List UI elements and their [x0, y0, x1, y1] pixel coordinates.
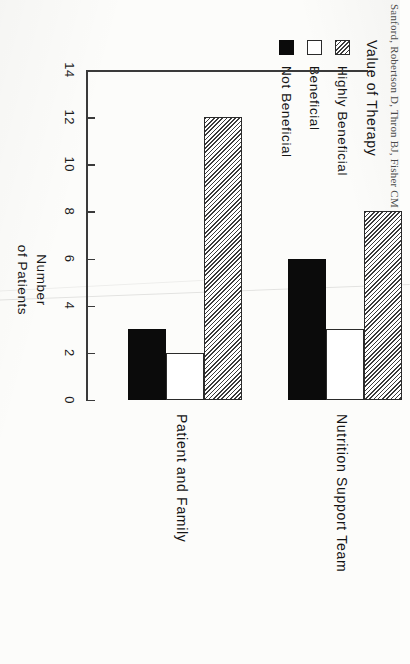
axis-tick — [86, 400, 95, 401]
axis-tick — [86, 211, 95, 212]
value-axis-title-line2: of Patients — [12, 190, 32, 370]
page-caption-strip: Sanford, Robertson D, Thron BJ, Fisher C… — [384, 0, 402, 664]
hatched-swatch-icon — [335, 40, 350, 55]
value-axis-title: Number of Patients — [12, 190, 51, 370]
axis-tick-label: 14 — [62, 62, 77, 77]
axis-tick-label: 12 — [62, 109, 77, 124]
axis-tick-label: 8 — [62, 208, 77, 216]
plot-area: 14121086420 Patient and FamilyNutrition … — [46, 70, 376, 462]
axis-tick — [86, 259, 95, 260]
bar — [288, 259, 326, 400]
value-axis-title-line1: Number — [32, 190, 52, 370]
bar — [128, 329, 166, 400]
bar — [326, 329, 364, 400]
value-axis-line — [86, 70, 88, 400]
caption-fragment: Sanford, Robertson D, Thron BJ, Fisher C… — [389, 4, 401, 208]
category-axis-line — [86, 70, 368, 72]
bar — [166, 353, 204, 400]
axis-tick — [86, 70, 95, 71]
white-swatch-icon — [307, 40, 322, 55]
axis-tick-label: 4 — [62, 302, 77, 310]
bar — [204, 117, 242, 400]
black-swatch-icon — [279, 40, 294, 55]
axis-tick-label: 6 — [62, 255, 77, 263]
axis-tick — [86, 117, 95, 118]
axis-tick-label: 2 — [62, 349, 77, 357]
category-label: Nutrition Support Team — [334, 414, 350, 572]
axis-tick — [86, 353, 95, 354]
axis-tick-label: 0 — [62, 396, 77, 404]
axis-tick — [86, 164, 95, 165]
axis-tick — [86, 306, 95, 307]
category-label: Patient and Family — [174, 414, 190, 543]
axis-tick-label: 10 — [62, 157, 77, 172]
